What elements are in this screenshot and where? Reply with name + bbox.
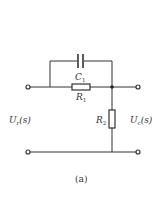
resistor-r1 [72,84,90,90]
circuit-diagram: C1 R1 R2 Ur(s) Uc(s) (a) [0,0,158,198]
terminal-input-bottom [26,150,30,154]
junction-node [110,85,114,89]
figure-caption: (a) [75,174,87,184]
capacitor-c1 [78,54,83,68]
terminal-output-bottom [136,150,140,154]
terminal-output-top [136,85,140,89]
label-r1: R1 [75,92,86,103]
label-output-voltage: Uc(s) [130,115,153,126]
label-c1: C1 [75,72,85,83]
terminal-input-top [26,85,30,89]
resistor-r2 [109,110,115,128]
wire-cap-right [84,61,112,87]
label-input-voltage: Ur(s) [9,115,31,126]
wire-cap-left [50,61,77,87]
label-r2: R2 [95,115,106,126]
